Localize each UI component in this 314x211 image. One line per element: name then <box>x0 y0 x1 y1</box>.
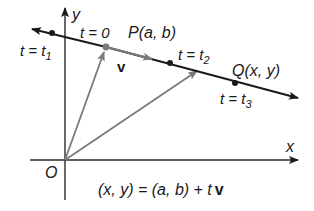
t1-label: t = t1 <box>20 42 52 62</box>
vector-equation: (x, y) = (a, b) + tv <box>98 181 224 198</box>
position-vector-to-line <box>65 71 197 160</box>
t2-label: t = t2 <box>178 46 210 66</box>
y-axis-label: y <box>71 6 81 23</box>
point-p <box>103 44 110 51</box>
point-t1 <box>49 30 55 36</box>
point-q-label: Q(x, y) <box>232 62 280 79</box>
direction-vector-v <box>106 47 152 59</box>
position-vector-to-p <box>65 52 104 160</box>
x-axis-label: x <box>285 138 295 155</box>
parametric-line-diagram: y x O t = 0 P(a, b) v t = t1 t = t2 Q(x,… <box>0 0 314 211</box>
t0-label: t = 0 <box>80 24 110 41</box>
t3-label: t = t3 <box>220 90 252 110</box>
origin-label: O <box>45 164 57 181</box>
point-q <box>232 80 238 86</box>
point-p-label: P(a, b) <box>128 24 176 41</box>
point-t2 <box>167 60 173 66</box>
vector-v-label: v <box>117 58 126 75</box>
